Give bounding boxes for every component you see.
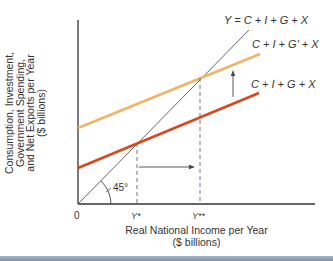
label-angle: 45° <box>113 182 128 193</box>
y-axis-label-line1: Consumption, Investment, <box>4 28 15 198</box>
x-axis-label: Real National Income per Year ($ billion… <box>78 224 315 248</box>
y-axis-label-line4: ($ billions) <box>36 28 47 198</box>
arrow-right-head-icon <box>189 165 195 169</box>
label-ad-new: C + I + G' + X <box>252 38 319 50</box>
x-axis-label-line2: ($ billions) <box>78 236 315 248</box>
label-ad-old: C + I + G + X <box>251 78 316 90</box>
tick-y-double-star: Y** <box>192 211 206 221</box>
y-axis-label: Consumption, Investment, Government Spen… <box>4 28 64 198</box>
label-45-line: Y = C + I + G + X <box>224 14 309 26</box>
angle-arc-icon <box>101 181 111 204</box>
y-axis-label-line3: and Net Exports per Year <box>25 28 36 198</box>
bottom-border-bar <box>0 256 333 261</box>
x-axis-label-line1: Real National Income per Year <box>78 224 315 236</box>
line-ad-old <box>78 93 259 168</box>
tick-origin: 0 <box>74 210 80 221</box>
arrow-up-head-icon <box>231 70 235 76</box>
tick-y-star: Y* <box>131 211 141 221</box>
